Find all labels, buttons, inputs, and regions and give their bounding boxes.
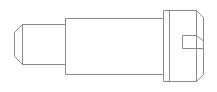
screw-drawing-svg (0, 0, 217, 92)
technical-drawing-canvas (0, 0, 217, 92)
shank-body (66, 19, 164, 75)
